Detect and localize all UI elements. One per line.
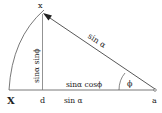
label-right-point: a: [152, 96, 157, 105]
label-hypotenuse: sin α: [86, 31, 108, 50]
hypotenuse-arrow: [47, 16, 155, 89]
point-a: [154, 89, 157, 92]
arrowhead-icon: [43, 13, 52, 21]
label-angle: ϕ: [127, 79, 133, 88]
label-adjacent: sinα cosϕ: [66, 80, 102, 89]
label-vertical: sinα sinϕ: [32, 48, 41, 83]
label-left-point: X: [7, 95, 15, 106]
trig-diagram: x X d a sin α sinα sinϕ sinα cosϕ sin α …: [0, 0, 162, 113]
label-base: sin α: [64, 96, 83, 105]
label-top-point: x: [38, 1, 43, 10]
label-foot-point: d: [40, 96, 45, 105]
angle-arc: [119, 73, 125, 90]
